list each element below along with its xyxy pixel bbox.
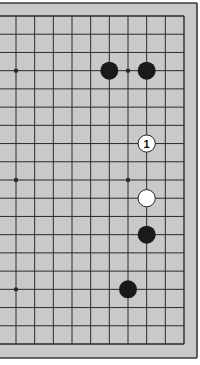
black-stone-icon (138, 62, 156, 80)
star-point-icon (14, 287, 18, 291)
black-stone (100, 62, 118, 80)
star-point-icon (126, 178, 130, 182)
board-background (0, 0, 200, 365)
white-stone-icon (138, 190, 155, 207)
black-stone (119, 280, 137, 298)
star-point-icon (126, 68, 130, 72)
stone-move-number: 1 (144, 138, 150, 150)
white-stone (138, 190, 155, 207)
white-stone: 1 (138, 135, 155, 152)
go-board: 1 (0, 0, 200, 365)
black-stone (138, 62, 156, 80)
black-stone (138, 226, 156, 244)
black-stone-icon (138, 226, 156, 244)
star-point-icon (14, 178, 18, 182)
black-stone-icon (119, 280, 137, 298)
diagram-caption: · · (60, 360, 100, 365)
black-stone-icon (100, 62, 118, 80)
star-point-icon (14, 68, 18, 72)
